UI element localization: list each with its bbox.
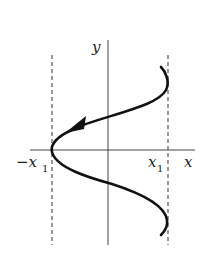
pos-x1-subscript: 1 <box>157 163 163 174</box>
y-axis-label: y <box>91 38 101 56</box>
trajectory-curve <box>80 67 168 126</box>
oscillation-diagram: y x −x 1 x 1 <box>0 0 209 255</box>
x-axis-label: x <box>184 153 193 171</box>
trajectory-curve-lower <box>52 130 167 235</box>
neg-x1-tick-label: −x <box>16 153 38 171</box>
neg-x1-subscript: 1 <box>42 163 48 174</box>
pos-x1-tick-label: x <box>148 153 157 171</box>
